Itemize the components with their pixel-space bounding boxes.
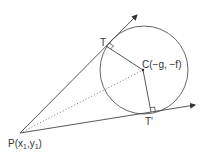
label-t-prime: T' — [145, 116, 153, 127]
label-t: T — [100, 37, 106, 48]
radius-ct-prime — [143, 70, 151, 112]
tangent-line-lower — [20, 105, 195, 133]
label-p: P(x1,y1) — [8, 138, 42, 150]
radius-ct — [106, 46, 143, 70]
tangent-line-upper — [20, 15, 137, 133]
tangent-diagram: T C(−g, −f) T' P(x1,y1) — [0, 0, 205, 160]
label-c: C(−g, −f) — [142, 59, 181, 70]
